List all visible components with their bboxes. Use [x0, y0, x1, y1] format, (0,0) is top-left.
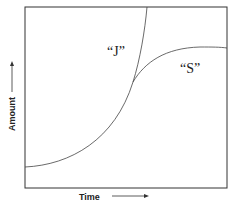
plot-frame	[25, 7, 227, 188]
x-axis-arrowhead-icon	[144, 194, 149, 198]
y-axis-label: Amount	[7, 97, 17, 131]
j-curve	[25, 7, 147, 167]
x-axis-label: Time	[79, 192, 100, 202]
growth-curves-diagram: “J” “S” Amount Time	[0, 0, 234, 207]
j-curve-label: “J”	[107, 44, 125, 59]
y-axis-arrowhead-icon	[10, 61, 14, 66]
s-curve-label: “S”	[180, 61, 200, 76]
